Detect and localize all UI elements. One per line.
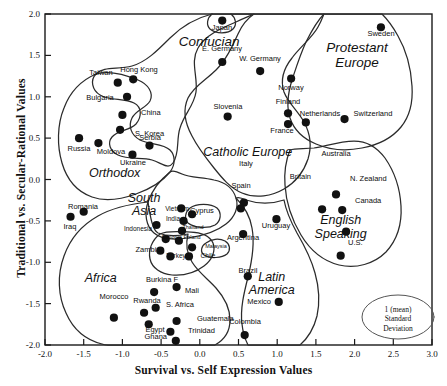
zone-label-south-asia: SouthAsia (128, 192, 161, 219)
x-tick-3.0: 3.0 (426, 349, 437, 359)
data-point-trinidad[interactable] (166, 328, 174, 336)
point-label-italy: Italy (239, 160, 253, 168)
data-point-britain[interactable] (318, 205, 326, 213)
point-label-mali: Mali (185, 287, 199, 295)
point-label-trinidad: Trinidad (188, 327, 215, 335)
data-point-colombia[interactable] (241, 331, 249, 339)
point-label-moldova: Moldova (97, 148, 125, 156)
point-label-india: India (166, 216, 180, 223)
x-tick--2.0: -2.0 (38, 349, 52, 359)
zone-label-catholic-europe: Catholic Europe (203, 146, 292, 159)
point-label-norway: Norway (278, 84, 303, 92)
x-tick-2.5: 2.5 (388, 349, 399, 359)
point-label-britain: Britain (290, 173, 311, 181)
data-point-spain[interactable] (237, 204, 245, 212)
point-label-thailand: Thailand (182, 225, 203, 231)
zone-label-english-speaking-line-2: Speaking (315, 227, 367, 240)
zone-label-south-asia-line-1: South (128, 192, 161, 205)
zone-label-latin-america-line-1: Latin (249, 271, 295, 284)
point-label-japan: Japan (212, 24, 232, 32)
data-point-china[interactable] (118, 111, 126, 119)
zone-label-protestant-europe-line-2: Europe (326, 55, 388, 69)
point-label-ukraine: Ukraine (120, 159, 146, 167)
point-label-spain: Spain (231, 182, 250, 190)
data-point-s-africa[interactable] (152, 304, 160, 312)
legend-label: 1 (mean)StandardDeviation (363, 305, 433, 333)
point-label-canada: Canada (355, 197, 381, 205)
point-label-australia: Australia (321, 150, 350, 158)
data-point-indonesia[interactable] (152, 221, 160, 229)
legend-line-3: Deviation (363, 324, 433, 333)
data-point-ghana[interactable] (172, 337, 180, 345)
point-label-switzerland: Switzerland (354, 110, 393, 118)
point-label-vietnam: Vietnam (165, 206, 189, 213)
data-point-bulgaria[interactable] (123, 93, 131, 101)
point-label-china: China (141, 109, 161, 117)
point-label-n-zealand: N. Zealand (350, 175, 387, 183)
data-point-u-s[interactable] (337, 252, 345, 260)
x-tick-2.0: 2.0 (349, 349, 360, 359)
point-label-burkina-f: Burkina F (146, 276, 178, 284)
data-point-w-germany[interactable] (256, 67, 264, 75)
point-label-serbia: Serbia (139, 134, 161, 142)
data-point-s-korea[interactable] (116, 126, 124, 134)
zone-label-latin-america: LatinAmerica (249, 271, 295, 298)
point-label-cyprus: Cyprus (190, 207, 214, 215)
data-point-iraq[interactable] (66, 213, 74, 221)
point-label-colombia: Colombia (229, 318, 261, 326)
data-point-malaysia[interactable] (188, 243, 196, 251)
point-label-romania: Romania (68, 203, 98, 211)
point-label-iraq: Iraq (64, 223, 77, 231)
point-label-bulgaria: Bulgaria (86, 94, 114, 102)
data-point-norway[interactable] (287, 74, 295, 82)
x-tick-1.0: 1.0 (272, 349, 283, 359)
data-point-russia[interactable] (75, 134, 83, 142)
point-label-slovenia: Slovenia (214, 103, 243, 111)
point-label-poland: Poland (183, 235, 200, 241)
data-point-mexico[interactable] (275, 298, 283, 306)
point-label-argentina: Argentina (227, 234, 259, 242)
zone-label-protestant-europe-line-1: Protestant (326, 41, 388, 55)
data-point-e-germany[interactable] (218, 58, 226, 66)
x-tick-0.5: 0.5 (233, 349, 244, 359)
point-label-ethiopia: Ethiopia (162, 235, 182, 241)
x-tick--1.0: -1.0 (115, 349, 129, 359)
data-point-finland[interactable] (284, 109, 292, 117)
data-point-taiwan[interactable] (114, 79, 122, 87)
data-point-netherlands[interactable] (302, 118, 310, 126)
data-point-hong-kong[interactable] (129, 75, 137, 83)
data-point-slovenia[interactable] (224, 113, 232, 121)
x-tick-0.0: 0.0 (194, 349, 205, 359)
data-point-serbia[interactable] (145, 141, 153, 149)
data-point-mali[interactable] (172, 283, 180, 291)
point-label-zambia: Zambia (135, 246, 160, 254)
data-point-australia[interactable] (332, 190, 340, 198)
zone-label-orthodox: Orthodox (89, 167, 140, 180)
point-label-mexico: Mexico (247, 298, 271, 306)
point-label-hong-kong: Hong Kong (120, 66, 158, 74)
point-label-taiwan: Taiwan (89, 69, 112, 77)
zone-label-protestant-europe: ProtestantEurope (326, 41, 388, 70)
point-label-s-africa: S. Africa (166, 301, 194, 309)
data-point-guatemala[interactable] (172, 317, 180, 325)
point-label-russia: Russia (68, 145, 91, 153)
point-label-w-germany: W. Germany (239, 55, 281, 63)
point-label-indonesia: Indonesia (124, 226, 152, 233)
x-tick-1.5: 1.5 (310, 349, 321, 359)
point-label-ghana: Ghana (144, 333, 167, 341)
zone-label-english-speaking-line-1: English (315, 214, 367, 227)
point-label-sweden: Sweden (367, 30, 394, 38)
zone-label-africa: Africa (85, 272, 117, 285)
point-label-morocco: Morocco (100, 293, 129, 301)
zone-label-english-speaking: EnglishSpeaking (315, 214, 367, 241)
legend-line-2: Standard (363, 314, 433, 323)
data-point-switzerland[interactable] (340, 115, 348, 123)
point-label-rwanda: Rwanda (133, 297, 161, 305)
point-label-chile: Chile (201, 253, 216, 260)
point-label-finland: Finland (276, 98, 301, 106)
x-axis-title: Survival vs. Self Expression Values (0, 364, 447, 376)
point-label-malaysia: Malaysia (205, 244, 227, 250)
zone-label-latin-america-line-2: America (249, 284, 295, 297)
data-point-morocco[interactable] (110, 314, 118, 322)
data-point-rwanda[interactable] (140, 309, 148, 317)
